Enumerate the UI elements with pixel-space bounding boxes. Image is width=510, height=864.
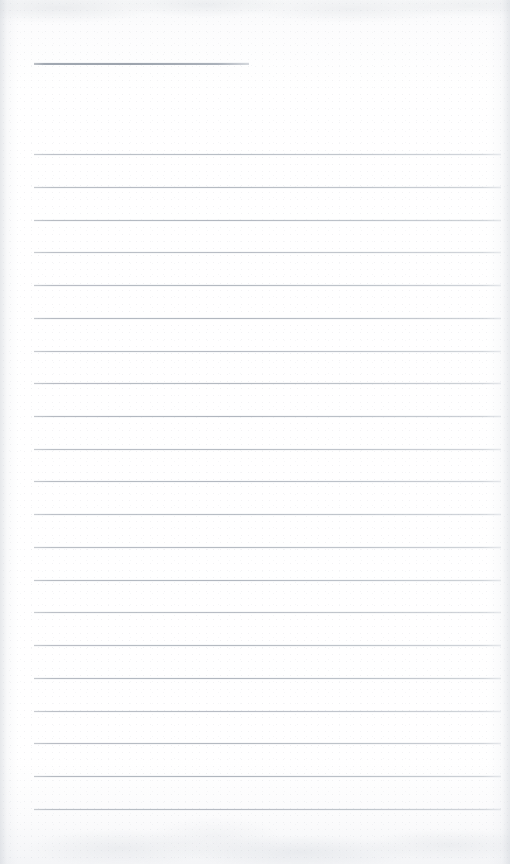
ruled-line — [34, 776, 501, 777]
ruled-line — [34, 514, 501, 515]
ruled-line — [34, 711, 501, 712]
ruled-line — [34, 351, 501, 352]
heading-rule — [34, 63, 249, 65]
ruled-line — [34, 383, 501, 384]
ruled-line — [34, 678, 501, 679]
ruled-line — [34, 416, 501, 417]
ruled-line — [34, 220, 501, 221]
ruled-line — [34, 318, 501, 319]
ruled-line — [34, 547, 501, 548]
ruled-line — [34, 154, 501, 155]
ruled-line — [34, 612, 501, 613]
ruled-line — [34, 743, 501, 744]
ruled-line — [34, 580, 501, 581]
ruled-lines-layer — [0, 0, 510, 864]
ruled-line — [34, 809, 501, 810]
ruled-line — [34, 645, 501, 646]
scanned-notepad-page — [0, 0, 510, 864]
ruled-line — [34, 285, 501, 286]
ruled-line — [34, 481, 501, 482]
ruled-line — [34, 187, 501, 188]
ruled-line — [34, 449, 501, 450]
ruled-line — [34, 252, 501, 253]
